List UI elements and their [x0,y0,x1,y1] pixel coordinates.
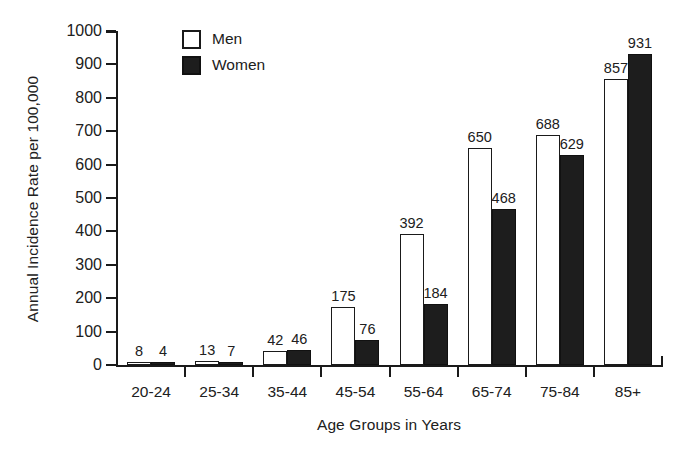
x-axis-title: Age Groups in Years [116,416,662,434]
x-axis-tick [252,367,254,377]
y-axis-tick-label: 300 [50,256,102,274]
y-axis-tick-label: 700 [50,122,102,140]
bar-value-label: 76 [337,321,397,337]
bar-men-20-24 [127,362,151,365]
y-axis-tick-label: 500 [50,189,102,207]
y-axis-tick [106,264,116,266]
y-axis-tick-label: 800 [50,89,102,107]
y-axis-tick [106,364,116,366]
bar-value-label: 688 [518,116,578,132]
bar-value-label: 629 [542,136,602,152]
legend-swatch-women-icon [182,56,201,75]
legend-item-men: Men [182,26,265,52]
y-axis-tick-label: 0 [50,356,102,374]
bar-women-25-34 [219,362,243,365]
legend-label-men: Men [212,30,242,48]
bar-value-label: 931 [610,35,670,51]
legend-item-women: Women [182,52,265,78]
x-axis-tick [320,367,322,377]
y-axis-tick-label: 200 [50,289,102,307]
y-axis-title: Annual Incidence Rate per 100,000 [24,34,42,364]
bar-women-45-54 [355,340,379,365]
y-axis-tick [106,331,116,333]
incidence-rate-bar-chart: Annual Incidence Rate per 100,000 010020… [0,0,682,462]
bar-value-label: 184 [406,285,466,301]
bar-value-label: 46 [269,331,329,347]
y-axis-tick-label: 900 [50,55,102,73]
bar-men-75-84 [536,135,560,365]
bar-men-35-44 [263,351,287,365]
bar-women-35-44 [287,350,311,365]
x-axis-tick [593,367,595,377]
bar-men-25-34 [195,361,219,365]
y-axis-tick [106,63,116,65]
bar-value-label: 175 [313,288,373,304]
bar-value-label: 468 [474,190,534,206]
y-axis-tick [106,130,116,132]
y-axis-line [116,31,118,367]
y-axis-tick [106,30,116,32]
y-axis-tick [106,230,116,232]
bar-women-85+ [628,54,652,365]
y-axis-tick-label: 100 [50,323,102,341]
bar-women-20-24 [151,362,175,365]
legend-swatch-men-icon [182,30,201,49]
y-axis-tick [106,97,116,99]
bar-women-55-64 [424,304,448,365]
x-axis-tick-label: 85+ [583,383,673,401]
y-axis-tick [106,297,116,299]
bar-men-85+ [604,79,628,365]
legend: Men Women [182,26,265,78]
bar-men-65-74 [468,148,492,365]
y-axis-tick-label: 600 [50,156,102,174]
y-axis-tick [106,164,116,166]
bar-women-65-74 [492,209,516,365]
x-axis-tick [389,367,391,377]
y-axis-tick-label: 400 [50,222,102,240]
x-axis-tick [525,367,527,377]
legend-label-women: Women [212,56,265,74]
x-axis-right-cap [661,356,663,367]
bar-value-label: 650 [450,129,510,145]
x-axis-tick [457,367,459,377]
x-axis-tick [184,367,186,377]
y-axis-tick-label: 1000 [50,22,102,40]
bar-women-75-84 [560,155,584,365]
bar-value-label: 392 [382,215,442,231]
y-axis-tick [106,197,116,199]
